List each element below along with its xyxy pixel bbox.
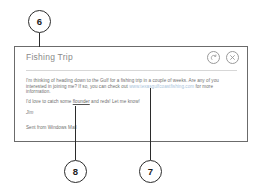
message-footer-note: Sent from Windows Mail [26,125,235,131]
callout-8-leader-line [75,106,76,160]
message-panel-header: Fishing Trip [15,47,247,70]
message-paragraph-2: I'd love to catch some flounder and reds… [26,99,235,105]
paragraph-2-text-after-misspelling: and reds! Let me know! [90,99,140,104]
header-divider [26,70,237,71]
callout-7: 7 [139,160,162,183]
callout-8-label: 8 [73,166,78,177]
callout-6-label: 6 [37,16,42,27]
message-signature: Jim [26,110,235,116]
paragraph-2-text-before-misspelling: I'd love to catch some [26,99,73,104]
close-icon[interactable] [226,51,239,64]
callout-7-leader-line [150,88,151,160]
message-body: I'm thinking of heading down to the Gulf… [26,78,235,131]
message-panel: Fishing Trip I'm thinking of heading dow… [14,46,248,142]
respond-icon[interactable] [207,51,220,64]
callout-6-leader-line [39,33,40,47]
fishing-website-link[interactable]: www.texasgulfcoastfishing.com [129,84,194,89]
message-subject-title: Fishing Trip [26,52,73,62]
callout-6: 6 [28,10,51,33]
message-paragraph-1: I'm thinking of heading down to the Gulf… [26,78,235,95]
figure-container: 6 7 8 Fishing Trip [0,0,264,195]
misspelled-word[interactable]: flounder [73,99,90,104]
callout-7-label: 7 [148,166,153,177]
message-panel-actions [207,51,239,64]
callout-8: 8 [64,160,87,183]
